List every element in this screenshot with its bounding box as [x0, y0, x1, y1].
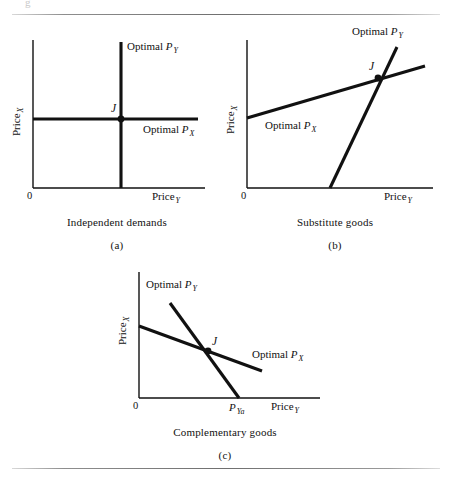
panel-b-y-axis-label: PriceX [224, 104, 239, 134]
panel-a-intersection-label: J [111, 102, 117, 114]
panel-a-caption-title: Independent demands [22, 216, 212, 228]
panel-c-label-optimal-py: Optimal PY [146, 278, 199, 293]
panel-c-label-optimal-px: Optimal PX [252, 348, 305, 363]
panel-b-label-optimal-px: Optimal PX [265, 119, 318, 134]
panel-b-caption: Substitute goods (b) [240, 216, 430, 251]
panel-c-origin-label: 0 [133, 400, 138, 411]
panel-a-intersection-dot [118, 116, 125, 123]
panel-a: J Optimal PY Optimal PX PriceX PriceY 0 [10, 40, 205, 205]
panel-c-caption-title: Complementary goods [130, 426, 320, 438]
panel-a-caption-letter: (a) [22, 239, 212, 251]
panel-b: J Optimal PY Optimal PX PriceX PriceY 0 [224, 25, 433, 205]
panel-b-curve-optimal-py [330, 47, 397, 188]
panel-c-intersection-label: J [212, 335, 218, 347]
panel-c-caption: Complementary goods (c) [130, 426, 320, 461]
panel-a-caption: Independent demands (a) [22, 216, 212, 251]
panel-c-intersection-dot [205, 348, 212, 355]
panel-a-label-optimal-py: Optimal PY [127, 40, 180, 55]
panel-a-y-axis-label: PriceX [10, 106, 25, 136]
panel-a-x-axis-label: PriceY [152, 190, 182, 205]
figure-container: g .axis-line { stroke: #111111; stroke-w… [0, 0, 452, 482]
panel-b-caption-letter: (b) [240, 239, 430, 251]
panel-b-origin-label: 0 [241, 190, 246, 201]
panel-c-curve-optimal-px [139, 326, 262, 371]
panel-a-label-optimal-px: Optimal PX [143, 123, 196, 138]
panel-c: J Optimal PY Optimal PX PriceX PriceY PY… [116, 272, 320, 416]
panel-b-intersection-dot [375, 75, 382, 82]
panel-b-intersection-label: J [369, 60, 375, 72]
panel-c-caption-letter: (c) [130, 449, 320, 461]
panel-a-origin-label: 0 [27, 190, 32, 201]
panel-c-x-axis-label: PriceY [271, 400, 301, 415]
panel-c-x-intercept-label: PYa [228, 401, 244, 416]
panel-b-label-optimal-py: Optimal PY [352, 25, 405, 40]
panel-c-y-axis-label: PriceX [116, 315, 131, 345]
panel-b-x-axis-label: PriceY [384, 190, 414, 205]
panel-b-caption-title: Substitute goods [240, 216, 430, 228]
panel-b-curve-optimal-px [247, 66, 425, 118]
